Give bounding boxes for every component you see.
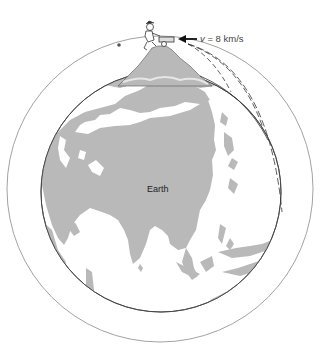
person-figure	[144, 21, 160, 50]
orbit-start-dot	[117, 43, 121, 47]
earth-globe	[41, 72, 282, 320]
mountain	[118, 46, 212, 86]
velocity-label: v = 8 km/s	[200, 33, 244, 44]
cannon	[159, 37, 174, 47]
earth-label: Earth	[147, 184, 169, 194]
velocity-arrow	[178, 35, 197, 43]
velocity-value: = 8 km/s	[205, 33, 244, 44]
newton-cannon-diagram: Earth v = 8 km/s	[0, 0, 326, 357]
